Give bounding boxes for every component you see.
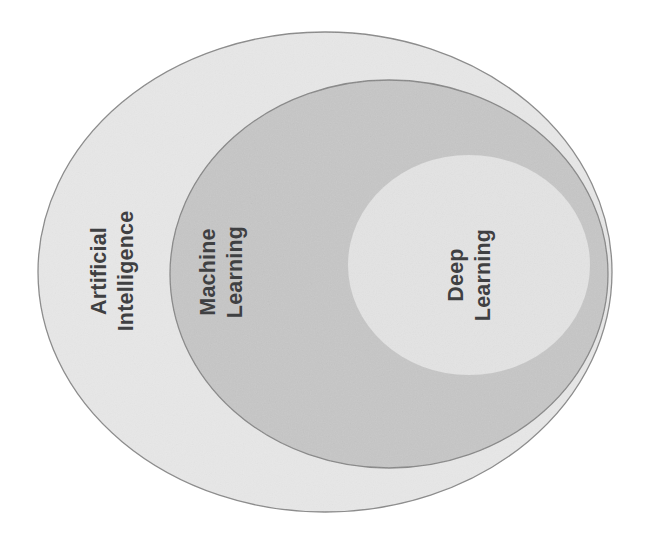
artificial-intelligence-label-line1: Artificial (87, 227, 111, 315)
nested-ellipse-diagram: Artificial Intelligence Machine Learning… (0, 0, 654, 543)
diagram-canvas: Artificial Intelligence Machine Learning… (0, 0, 654, 543)
machine-learning-label-line2: Learning (223, 226, 247, 318)
artificial-intelligence-label-line2: Intelligence (114, 211, 138, 332)
deep-learning-ellipse[interactable] (348, 155, 590, 375)
deep-learning-label-line2: Learning (471, 229, 495, 321)
deep-learning-label-line1: Deep (444, 248, 468, 301)
set-deep-learning[interactable]: Deep Learning (348, 155, 590, 375)
machine-learning-label-line1: Machine (196, 228, 220, 315)
